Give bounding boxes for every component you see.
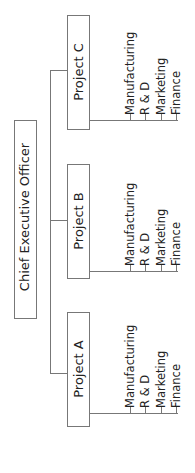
connector-project-c <box>50 70 67 71</box>
dept-label: Finance <box>170 364 182 408</box>
dept-label: R & D <box>139 233 151 266</box>
project-c-label: Project C <box>71 30 86 114</box>
project-a-label: Project A <box>71 327 86 411</box>
dept-bar-project-b <box>90 271 178 272</box>
connector-project-b <box>50 220 67 221</box>
dept-label: Finance <box>170 71 182 115</box>
dept-label: Finance <box>170 222 182 266</box>
dept-label: Manufacturing <box>124 32 136 115</box>
dept-label: Manufacturing <box>124 183 136 266</box>
dept-label: Marketing <box>155 351 167 408</box>
ceo-label: Chief Executive Officer <box>17 132 32 302</box>
connector-project-a <box>50 373 67 374</box>
dept-bar-project-c <box>90 120 178 121</box>
dept-bar-project-a <box>90 413 178 414</box>
trunk-line <box>50 70 51 374</box>
dept-label: R & D <box>139 375 151 408</box>
dept-label: R & D <box>139 82 151 115</box>
dept-label: Manufacturing <box>124 325 136 408</box>
dept-label: Marketing <box>155 209 167 266</box>
dept-label: Marketing <box>155 58 167 115</box>
project-b-label: Project B <box>71 179 86 263</box>
